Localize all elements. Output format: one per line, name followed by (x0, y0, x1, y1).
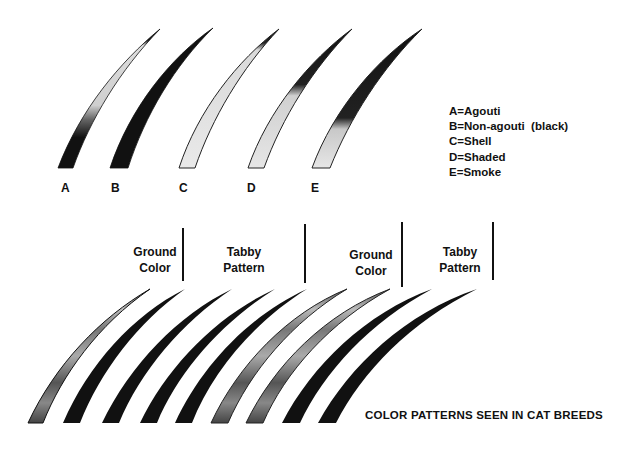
label-d: D (247, 181, 256, 195)
legend-item-shaded: D=Shaded (449, 150, 568, 165)
section-tabby-pattern-1: Tabby Pattern (209, 244, 279, 276)
hair-illustration (0, 0, 642, 452)
legend-item-shell: C=Shell (449, 134, 568, 149)
section-ground-color-1: Ground Color (120, 244, 190, 276)
section-line2: Pattern (425, 260, 495, 276)
section-line2: Color (336, 263, 406, 279)
divider-line (492, 222, 494, 280)
section-line1: Ground (120, 244, 190, 260)
divider-line (401, 222, 403, 287)
divider-line (182, 228, 184, 281)
label-b: B (111, 181, 120, 195)
legend-item-agouti: A=Agouti (449, 104, 568, 119)
divider-line (304, 224, 306, 283)
legend: A=Agouti B=Non-agouti (black) C=Shell D=… (449, 104, 568, 180)
legend-item-non-agouti: B=Non-agouti (black) (449, 119, 568, 134)
label-c: C (179, 181, 188, 195)
figure-caption: COLOR PATTERNS SEEN IN CAT BREEDS (365, 409, 603, 421)
section-line2: Pattern (209, 260, 279, 276)
section-ground-color-2: Ground Color (336, 247, 406, 279)
section-line2: Color (120, 260, 190, 276)
section-line1: Tabby (209, 244, 279, 260)
section-line1: Ground (336, 247, 406, 263)
label-e: E (311, 181, 319, 195)
legend-item-smoke: E=Smoke (449, 165, 568, 180)
section-tabby-pattern-2: Tabby Pattern (425, 244, 495, 276)
bottom-hair-1-ground (28, 289, 150, 423)
label-a: A (61, 181, 70, 195)
section-line1: Tabby (425, 244, 495, 260)
